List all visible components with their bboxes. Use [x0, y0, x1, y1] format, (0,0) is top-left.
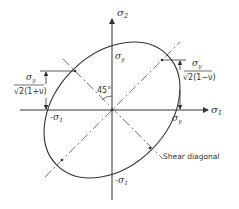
left-intercept-label: -σ1 — [50, 112, 63, 123]
bottom-intercept-label: -σ1 — [115, 175, 128, 186]
yield-ellipse-diagram: σ2 σ1 σy σy -σ1 -σ1 45° σy √2(1+ν) σy √2… — [0, 0, 239, 209]
left-dim-denominator: √2(1+ν) — [14, 87, 47, 96]
sigma1-label: σ1 — [211, 104, 222, 117]
top-intercept-label: σy — [115, 51, 125, 63]
point-lower-left — [61, 159, 64, 162]
angle-label: 45° — [97, 86, 111, 95]
sigma2-label: σ2 — [117, 7, 129, 20]
shear-diagonal-label: Shear diagonal — [163, 152, 219, 161]
right-dim-numerator: σy — [192, 58, 202, 70]
diagram-canvas: σ2 σ1 σy σy -σ1 -σ1 45° σy √2(1+ν) σy √2… — [0, 0, 239, 209]
right-intercept-label: σy — [172, 113, 182, 125]
right-dim-denominator: √2(1−ν) — [183, 73, 216, 82]
left-dim-numerator: σy — [26, 72, 36, 84]
origin-point — [111, 109, 114, 112]
point-lower-right — [149, 147, 152, 150]
